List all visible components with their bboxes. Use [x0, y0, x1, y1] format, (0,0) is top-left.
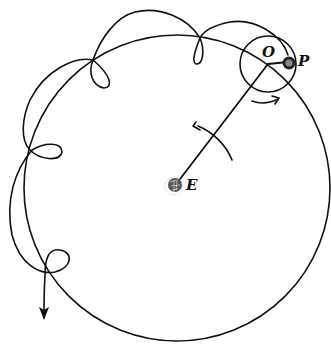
label-epicycle-center: O [262, 45, 275, 60]
planet-icon [283, 57, 296, 70]
epicycle-rotation-arrow-icon [252, 99, 278, 103]
radius-line [177, 64, 268, 183]
retrograde-loop-path [10, 10, 288, 318]
label-earth: E [186, 178, 197, 193]
deferent-rotation-arrow-icon [198, 126, 232, 160]
label-planet: P [298, 54, 309, 69]
epicycle-diagram [0, 0, 331, 348]
earth-icon [165, 177, 183, 195]
